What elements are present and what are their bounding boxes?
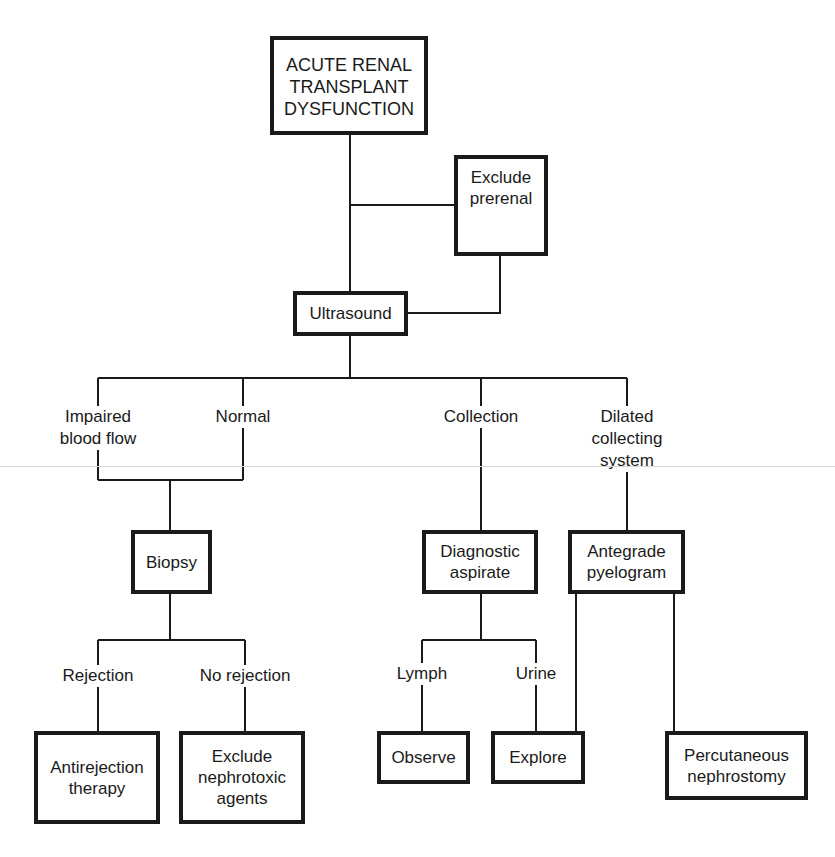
branch-label-collection: Collection [442,406,521,428]
branch-label-impaired-blood-flow: Impaired blood flow [58,406,139,450]
observe-box: Observe [377,731,470,784]
ultrasound-box: Ultrasound [293,291,408,336]
biopsy-box: Biopsy [131,530,212,594]
antegrade-pyelogram-box: Antegrade pyelogram [568,530,685,594]
scan-artifact-line [0,466,835,467]
branch-label-lymph: Lymph [395,663,449,685]
explore-box: Explore [491,731,585,784]
antirejection-therapy-box: Antirejection therapy [34,731,160,824]
branch-label-normal: Normal [214,406,273,428]
branch-label-no-rejection: No rejection [198,665,293,687]
diagnostic-aspirate-box: Diagnostic aspirate [422,530,538,594]
branch-label-urine: Urine [514,663,559,685]
branch-label-rejection: Rejection [61,665,136,687]
percutaneous-nephrostomy-box: Percutaneous nephrostomy [665,731,808,800]
start-box-acute-renal-transplant-dysfunction: ACUTE RENAL TRANSPLANT DYSFUNCTION [270,36,428,135]
exclude-prerenal-box: Exclude prerenal [454,155,548,256]
exclude-nephrotoxic-agents-box: Exclude nephrotoxic agents [179,731,305,824]
branch-label-dilated-collecting-system: Dilated collecting system [590,406,665,472]
